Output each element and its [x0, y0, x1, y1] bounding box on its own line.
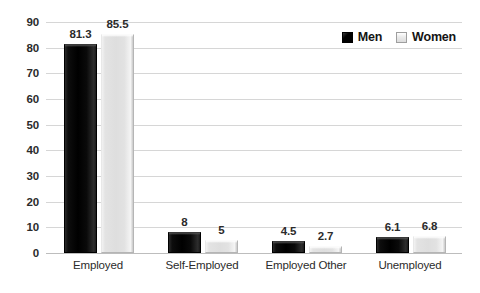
bar-bevel	[169, 233, 200, 235]
chart-legend: MenWomen	[342, 30, 456, 44]
y-axis-tick-label: 20	[26, 196, 39, 208]
bar-men-unemployed	[376, 237, 409, 253]
x-axis-tick-label: Self-Employed	[150, 259, 254, 271]
x-axis: EmployedSelf-EmployedEmployed OtherUnemp…	[46, 259, 462, 287]
x-axis-tick-label: Employed Other	[254, 259, 358, 271]
bar-men-employed-other	[272, 241, 305, 253]
gridline	[46, 253, 462, 254]
legend-label: Men	[358, 30, 382, 44]
y-axis-tick-label: 40	[26, 144, 39, 156]
legend-label: Women	[412, 30, 456, 44]
y-axis-tick-label: 80	[26, 42, 39, 54]
bar-men-self-employed	[168, 232, 201, 253]
y-axis-tick-label: 30	[26, 170, 39, 182]
y-axis-tick-label: 0	[33, 247, 39, 259]
bar-women-self-employed	[205, 240, 238, 253]
data-label: 6.8	[407, 220, 452, 232]
y-axis-tick-label: 50	[26, 119, 39, 131]
bar-women-employed	[101, 34, 134, 253]
bar-bevel	[273, 242, 304, 244]
legend-swatch-icon	[342, 32, 353, 43]
plot-area	[46, 22, 462, 253]
bar-women-unemployed	[413, 236, 446, 253]
legend-item-men[interactable]: Men	[342, 30, 382, 44]
bar-bevel	[414, 237, 445, 239]
bar-bevel	[206, 241, 237, 243]
bar-bevel	[65, 45, 96, 47]
data-label: 81.3	[58, 28, 103, 40]
y-axis-tick-label: 70	[26, 67, 39, 79]
bar-bevel	[377, 238, 408, 240]
data-label: 5	[199, 224, 244, 236]
y-axis-tick-label: 90	[26, 16, 39, 28]
x-axis-tick-label: Unemployed	[358, 259, 462, 271]
bar-men-employed	[64, 44, 97, 253]
data-label: 85.5	[95, 18, 140, 30]
bar-bevel	[310, 247, 341, 249]
bar-chart: 0102030405060708090 EmployedSelf-Employe…	[0, 0, 480, 293]
y-axis-tick-label: 60	[26, 93, 39, 105]
data-label: 2.7	[303, 230, 348, 242]
bar-women-employed-other	[309, 246, 342, 253]
legend-swatch-icon	[396, 32, 407, 43]
y-axis-tick-label: 10	[26, 221, 39, 233]
bar-bevel	[102, 35, 133, 37]
y-axis: 0102030405060708090	[0, 0, 46, 293]
legend-item-women[interactable]: Women	[396, 30, 456, 44]
x-axis-tick-label: Employed	[46, 259, 150, 271]
